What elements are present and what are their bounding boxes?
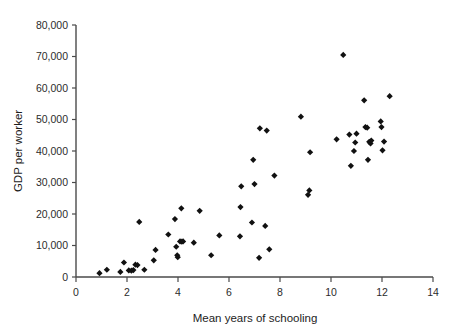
x-tick-label: 0 <box>73 286 79 298</box>
data-point <box>266 246 272 252</box>
x-tick-label: 4 <box>175 286 181 298</box>
x-tick-label: 8 <box>277 286 283 298</box>
data-point <box>365 157 371 163</box>
data-point <box>353 131 359 137</box>
y-tick-label: 40,000 <box>36 145 68 157</box>
data-point <box>378 124 384 130</box>
data-point <box>191 240 197 246</box>
data-point <box>264 127 270 133</box>
data-point <box>307 149 313 155</box>
y-axis-title: GDP per worker <box>12 110 24 192</box>
data-point <box>173 244 179 250</box>
x-tick-label: 14 <box>427 286 439 298</box>
data-point <box>340 52 346 58</box>
y-tick-label: 30,000 <box>36 176 68 188</box>
x-tick-label: 10 <box>325 286 337 298</box>
data-point <box>178 205 184 211</box>
y-tick-label: 20,000 <box>36 208 68 220</box>
data-point <box>197 208 203 214</box>
data-point <box>237 204 243 210</box>
data-point <box>250 157 256 163</box>
y-tick-label: 0 <box>62 271 68 283</box>
data-point <box>378 118 384 124</box>
data-point <box>237 233 243 239</box>
data-point <box>346 132 352 138</box>
data-point <box>251 181 257 187</box>
data-point <box>172 216 178 222</box>
data-point <box>348 163 354 169</box>
data-point <box>165 231 171 237</box>
y-tick-label: 80,000 <box>36 19 68 31</box>
x-tick-label: 2 <box>124 286 130 298</box>
data-point <box>256 255 262 261</box>
y-tick-label: 60,000 <box>36 82 68 94</box>
x-tick-label: 6 <box>226 286 232 298</box>
data-point <box>379 147 385 153</box>
data-point <box>262 223 268 229</box>
y-axis-ticks: 010,00020,00030,00040,00050,00060,00070,… <box>36 19 76 283</box>
data-point <box>152 247 158 253</box>
data-point <box>351 148 357 154</box>
data-point <box>136 219 142 225</box>
data-point <box>257 125 263 131</box>
data-point <box>238 183 244 189</box>
data-point <box>121 259 127 265</box>
data-point <box>334 136 340 142</box>
data-point <box>151 257 157 263</box>
plot-canvas: 010,00020,00030,00040,00050,00060,00070,… <box>0 0 451 334</box>
data-point <box>298 114 304 120</box>
data-point <box>387 93 393 99</box>
y-tick-label: 10,000 <box>36 239 68 251</box>
x-axis-ticks: 02468101214 <box>73 277 439 298</box>
y-tick-label: 50,000 <box>36 113 68 125</box>
data-point <box>352 139 358 145</box>
data-point <box>305 192 311 198</box>
x-tick-label: 12 <box>376 286 388 298</box>
data-point <box>117 269 123 275</box>
data-point <box>306 187 312 193</box>
data-point <box>216 232 222 238</box>
data-point <box>104 267 110 273</box>
data-point <box>141 267 147 273</box>
data-point <box>96 270 102 276</box>
data-point <box>249 219 255 225</box>
x-axis-title: Mean years of schooling <box>193 312 318 324</box>
data-point <box>361 97 367 103</box>
scatter-chart: 010,00020,00030,00040,00050,00060,00070,… <box>0 0 451 334</box>
data-point <box>381 138 387 144</box>
data-points <box>96 52 392 276</box>
data-point <box>208 252 214 258</box>
data-point <box>271 172 277 178</box>
y-tick-label: 70,000 <box>36 50 68 62</box>
